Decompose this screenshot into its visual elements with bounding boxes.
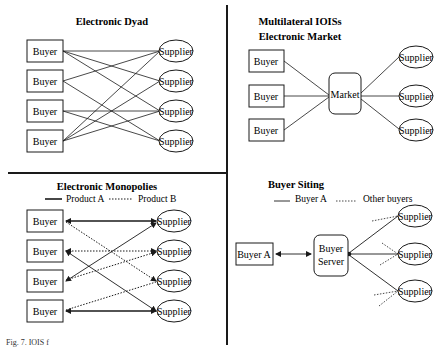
- siting-supplier: Supplier: [398, 280, 433, 302]
- market-buyer: Buyer: [249, 50, 284, 72]
- siting-buyer-a: Buyer A: [236, 243, 273, 265]
- supplier-label: Supplier: [399, 91, 434, 102]
- legend-other-buyers: Other buyers: [363, 194, 413, 204]
- server-label-line2: Server: [318, 256, 345, 267]
- legend-product-a: Product A: [66, 194, 104, 204]
- panel-electronic-monopolies: Electronic Monopolies Product A Product …: [27, 181, 192, 322]
- supplier-label: Supplier: [399, 125, 434, 136]
- supplier-label: Supplier: [159, 136, 194, 147]
- supplier-label: Supplier: [159, 76, 194, 87]
- monopolies-title: Electronic Monopolies: [57, 181, 157, 192]
- dyad-supplier: Supplier: [159, 100, 194, 122]
- supplier-label: Supplier: [398, 286, 433, 297]
- monopoly-supplier: Supplier: [157, 300, 192, 322]
- buyer-a-label: Buyer A: [237, 249, 271, 260]
- supplier-label: Supplier: [398, 249, 433, 260]
- dyad-buyer: Buyer: [27, 70, 63, 92]
- market-buyer: Buyer: [249, 119, 284, 141]
- buyer-label: Buyer: [33, 276, 58, 287]
- dyad-supplier: Supplier: [159, 70, 194, 92]
- monopoly-supplier: Supplier: [157, 240, 192, 262]
- panel-buyer-siting: Buyer Siting Buyer A Other buyers Buyer …: [236, 179, 433, 306]
- supplier-label: Supplier: [157, 246, 192, 257]
- supplier-label: Supplier: [157, 216, 192, 227]
- supplier-label: Supplier: [159, 106, 194, 117]
- buyer-server: Buyer Server: [314, 235, 348, 276]
- buyer-label: Buyer: [33, 306, 58, 317]
- buyer-label: Buyer: [33, 246, 58, 257]
- server-label-line1: Buyer: [319, 243, 344, 254]
- dyad-buyer: Buyer: [27, 130, 63, 152]
- supplier-label: Supplier: [399, 52, 434, 63]
- supplier-label: Supplier: [157, 276, 192, 287]
- figure-caption: Fig. 7. IOIS f: [6, 338, 49, 347]
- monopoly-links: [66, 221, 156, 311]
- buyer-label: Buyer: [33, 216, 58, 227]
- buyer-label: Buyer: [254, 56, 279, 67]
- buyer-label: Buyer: [33, 76, 58, 87]
- other-buyer-links: [372, 216, 398, 306]
- monopoly-supplier: Supplier: [157, 210, 192, 232]
- market-supplier: Supplier: [399, 85, 434, 107]
- ioiss-diagram: Electronic Dyad Buyer Buyer Buyer Buyer …: [0, 0, 444, 349]
- supplier-label: Supplier: [157, 306, 192, 317]
- dyad-title: Electronic Dyad: [76, 16, 149, 27]
- market-subtitle: Electronic Market: [259, 31, 342, 42]
- monopoly-supplier: Supplier: [157, 270, 192, 292]
- siting-supplier: Supplier: [398, 205, 433, 227]
- supplier-label: Supplier: [398, 211, 433, 222]
- market-supplier: Supplier: [399, 46, 434, 68]
- monopoly-buyer: Buyer: [27, 210, 63, 232]
- buyer-label: Buyer: [33, 106, 58, 117]
- dyad-links: [63, 51, 160, 141]
- siting-supplier: Supplier: [398, 243, 433, 265]
- buyer-label: Buyer: [33, 136, 58, 147]
- supplier-label: Supplier: [159, 46, 194, 57]
- panel-electronic-dyad: Electronic Dyad Buyer Buyer Buyer Buyer …: [27, 16, 194, 152]
- monopoly-buyer: Buyer: [27, 240, 63, 262]
- legend-product-b: Product B: [138, 194, 176, 204]
- siting-title: Buyer Siting: [268, 179, 325, 190]
- monopoly-buyer: Buyer: [27, 270, 63, 292]
- multilateral-title: Multilateral IOISs: [258, 16, 341, 27]
- legend-buyer-a: Buyer A: [295, 194, 327, 204]
- buyer-label: Buyer: [254, 91, 279, 102]
- dyad-supplier: Supplier: [159, 130, 194, 152]
- buyer-label: Buyer: [33, 46, 58, 57]
- market-hub: Market: [329, 73, 361, 114]
- dyad-supplier: Supplier: [159, 40, 194, 62]
- panel-electronic-market: Multilateral IOISs Electronic Market Buy…: [249, 16, 434, 141]
- monopoly-buyer: Buyer: [27, 300, 63, 322]
- market-buyer: Buyer: [249, 85, 284, 107]
- dyad-buyer: Buyer: [27, 100, 63, 122]
- dyad-buyer: Buyer: [27, 40, 63, 62]
- buyer-label: Buyer: [254, 125, 279, 136]
- market-label: Market: [331, 89, 360, 100]
- market-supplier: Supplier: [399, 119, 434, 141]
